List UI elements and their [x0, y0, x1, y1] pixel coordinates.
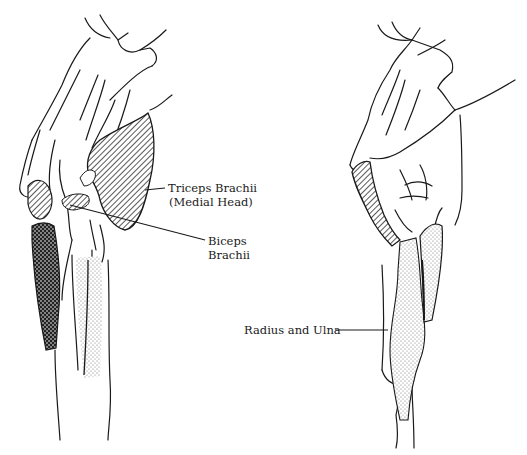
checker-region-left — [32, 223, 60, 350]
hatched-region-elbow-left — [28, 180, 52, 219]
label-biceps-line1: Biceps — [208, 234, 250, 248]
label-radius-and-ulna: Radius and Ulna — [244, 323, 341, 337]
hatched-region-right — [352, 161, 400, 246]
label-biceps-line2: Brachii — [208, 248, 250, 262]
stipple-bone-left — [76, 256, 102, 378]
label-biceps-brachii: Biceps Brachii — [208, 234, 250, 262]
label-triceps-brachii: Triceps Brachii (Medial Head) — [168, 181, 257, 209]
label-radius-ulna-line1: Radius and Ulna — [244, 323, 341, 337]
label-triceps-line1: Triceps Brachii — [168, 181, 257, 195]
anatomy-figure — [0, 0, 527, 455]
label-triceps-line2: (Medial Head) — [168, 195, 257, 209]
stipple-bone-right-main — [390, 238, 425, 420]
